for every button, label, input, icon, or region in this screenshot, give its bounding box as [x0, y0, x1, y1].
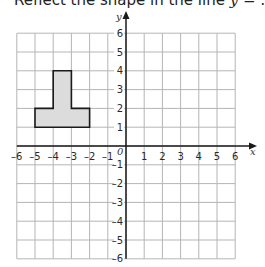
t-shape [35, 71, 90, 127]
y-tick-label: 4 [117, 65, 123, 76]
x-tick-label: 5 [214, 151, 220, 162]
x-tick-label: 1 [141, 151, 147, 162]
y-tick-label: 6 [117, 28, 123, 39]
x-tick-label: 6 [232, 151, 238, 162]
x-tick-label: 2 [159, 151, 165, 162]
x-tick-label: –5 [29, 151, 40, 162]
coordinate-grid: xy0–6–5–4–3–2–1123456–6–5–4–3–2–1123456 [0, 0, 265, 267]
x-tick-label: 4 [196, 151, 202, 162]
x-tick-label: –3 [66, 151, 77, 162]
x-tick-label: –2 [84, 151, 95, 162]
y-tick-label: 2 [117, 103, 123, 114]
y-tick-label: 1 [117, 122, 123, 133]
y-tick-label: –3 [112, 197, 123, 208]
y-tick-label: –1 [112, 159, 123, 170]
x-tick-label: –4 [48, 151, 59, 162]
x-axis-label: x [250, 146, 256, 157]
x-tick-label: –6 [11, 151, 22, 162]
y-axis-arrow-icon [123, 11, 130, 19]
y-tick-label: –2 [112, 178, 123, 189]
y-tick-label: 5 [117, 47, 123, 58]
y-tick-label: 3 [117, 84, 123, 95]
origin-label: 0 [117, 146, 124, 157]
tick-labels: xy0–6–5–4–3–2–1123456–6–5–4–3–2–1123456 [11, 11, 256, 265]
y-tick-label: –4 [112, 216, 123, 227]
y-axis-label: y [115, 11, 122, 22]
y-tick-label: –6 [112, 253, 123, 264]
shape-layer [35, 71, 90, 127]
x-tick-label: 3 [177, 151, 183, 162]
y-tick-label: –5 [112, 235, 123, 246]
